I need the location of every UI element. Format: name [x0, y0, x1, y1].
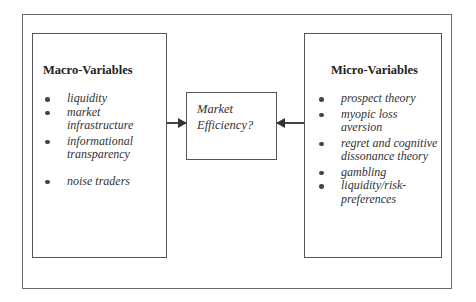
micro-variables-title: Micro-Variables: [331, 63, 418, 78]
list-item: informational transparency: [33, 135, 166, 162]
market-efficiency-box: Market Efficiency?: [186, 92, 277, 160]
list-item: liquidity: [33, 92, 166, 106]
list-item: liquidity/risk-preferences: [305, 179, 441, 206]
market-efficiency-label: Market Efficiency?: [197, 101, 253, 133]
bullet-icon: [319, 184, 324, 189]
arrowhead-icon: [276, 118, 285, 128]
list-item: gambling: [305, 166, 441, 180]
arrow-micro-to-center: [277, 122, 304, 124]
arrow-macro-to-center: [167, 122, 186, 124]
macro-variables-box: Macro-Variables liquidity market infrast…: [32, 33, 167, 258]
bullet-icon: [319, 97, 324, 102]
bullet-icon: [45, 180, 50, 185]
bullet-icon: [45, 111, 50, 116]
list-item: regret and cognitive dissonance theory: [305, 137, 441, 164]
bullet-icon: [319, 113, 324, 118]
bullet-icon: [319, 142, 324, 147]
bullet-icon: [319, 171, 324, 176]
bullet-icon: [45, 140, 50, 145]
list-item: myopic loss aversion: [305, 108, 441, 135]
list-item: market infrastructure: [33, 106, 166, 133]
bullet-icon: [45, 97, 50, 102]
macro-variables-list: liquidity market infrastructure informat…: [33, 92, 166, 188]
micro-variables-box: Micro-Variables prospect theory myopic l…: [304, 33, 442, 258]
micro-variables-list: prospect theory myopic loss aversion reg…: [305, 92, 441, 206]
list-item: noise traders: [33, 175, 166, 189]
list-item: prospect theory: [305, 92, 441, 106]
macro-variables-title: Macro-Variables: [43, 63, 133, 78]
